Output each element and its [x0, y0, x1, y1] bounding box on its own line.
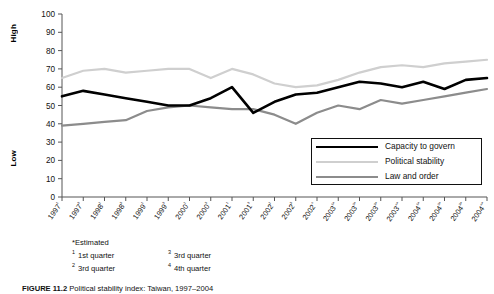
- footnote-marker-3: 33rd quarter: [168, 249, 211, 261]
- x-tick-label: 2001¹: [215, 200, 233, 221]
- footnote-text-1: 1st quarter: [78, 251, 114, 260]
- footnote-marker-4: 44th quarter: [168, 262, 211, 274]
- x-axis: 1997¹1997³1998¹1998³1999¹1999³2000¹2000³…: [45, 197, 488, 223]
- legend-item-capacity-to-govern: Capacity to govern: [312, 139, 481, 154]
- legend-swatch-political-stability: [316, 161, 378, 163]
- x-tick-label: 2003²*: [342, 201, 361, 223]
- x-tick-label: 2000¹: [173, 200, 191, 221]
- x-tick-label: 2003³*: [363, 201, 382, 223]
- chart-container: High Low 1009080706050403020100 1997¹199…: [0, 0, 494, 294]
- x-tick-label: 2003¹*: [320, 201, 339, 223]
- x-tick-label: 1997¹: [45, 200, 63, 221]
- legend-label-political-stability: Political stability: [385, 157, 444, 165]
- x-tick-label: 2004¹*: [405, 201, 424, 223]
- y-tick-label: 90: [46, 28, 56, 37]
- x-tick-label: 1997³: [67, 200, 85, 221]
- footnote-text-2: 3rd quarter: [78, 263, 115, 272]
- footnote-sup-4: 4: [168, 262, 171, 268]
- legend-label-capacity-to-govern: Capacity to govern: [385, 142, 455, 150]
- footnote-marker-2: 23rd quarter: [72, 262, 168, 274]
- x-tick-label: 2004⁴*: [469, 201, 489, 223]
- legend-swatch-capacity-to-govern: [316, 146, 378, 148]
- footnote-sup-2: 2: [72, 262, 75, 268]
- figure-caption: FIGURE 11.2 Political stability index: T…: [22, 284, 213, 293]
- footnote-sup-1: 1: [72, 249, 75, 255]
- x-tick-label: 1999³: [152, 200, 170, 221]
- legend-item-law-and-order: Law and order: [312, 169, 481, 184]
- y-tick-label: 60: [46, 83, 56, 92]
- x-tick-label: 2002¹: [258, 200, 276, 221]
- footnote-marker-1: 11st quarter: [72, 249, 168, 261]
- y-tick-label: 70: [46, 65, 56, 74]
- series-line-law-and-order: [62, 89, 487, 126]
- legend-swatch-law-and-order: [316, 176, 378, 178]
- x-tick-label: 1998³: [109, 200, 127, 221]
- y-axis: 1009080706050403020100: [41, 10, 62, 202]
- x-tick-label: 2002³: [279, 200, 297, 221]
- y-tick-label: 30: [46, 138, 56, 147]
- x-tick-label: 2003⁴*: [384, 201, 404, 223]
- legend-item-political-stability: Political stability: [312, 154, 481, 169]
- chart-footnotes: *Estimated 11st quarter 33rd quarter 23r…: [72, 238, 211, 273]
- data-series-group: [62, 60, 487, 126]
- chart-legend: Capacity to govern Political stability L…: [311, 138, 482, 185]
- footnote-text-4: 4th quarter: [174, 263, 211, 272]
- y-tick-label: 50: [46, 102, 56, 111]
- x-tick-label: 1999¹: [130, 200, 148, 221]
- legend-label-law-and-order: Law and order: [385, 172, 439, 180]
- x-tick-label: 2002⁴: [300, 201, 319, 222]
- y-tick-label: 20: [46, 156, 56, 165]
- footnote-text-3: 3rd quarter: [174, 251, 211, 260]
- x-tick-label: 2001³: [237, 200, 255, 221]
- figure-caption-prefix: FIGURE 11.2: [22, 284, 67, 293]
- y-tick-label: 40: [46, 120, 56, 129]
- footnote-sup-3: 3: [168, 249, 171, 255]
- y-tick-label: 100: [41, 10, 55, 19]
- x-tick-label: 2000³: [194, 200, 212, 221]
- footnote-estimated: *Estimated: [72, 238, 211, 248]
- figure-caption-text: Political stability index: Taiwan, 1997–…: [69, 284, 213, 293]
- x-tick-label: 1998¹: [88, 200, 106, 221]
- y-tick-label: 10: [46, 175, 56, 184]
- y-tick-label: 80: [46, 47, 56, 56]
- x-tick-label: 2004²*: [427, 201, 446, 223]
- x-tick-label: 2004³*: [448, 201, 467, 223]
